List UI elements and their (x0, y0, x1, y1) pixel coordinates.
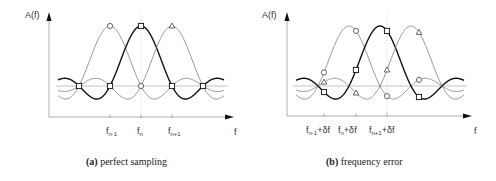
circle-marker-icon (384, 94, 389, 99)
panel-a: fn-1fnfn+1 A(f) f (a) perfect sampling (25, 10, 237, 168)
square-marker-icon (138, 23, 143, 28)
y-axis-label: A(f) (262, 10, 277, 20)
triangle-marker-icon (321, 79, 327, 84)
x-axis-arrow-icon (225, 115, 234, 120)
square-marker-icon (384, 28, 389, 33)
tick-label: fn+δf (338, 125, 357, 136)
tick-label: fn+1 (168, 126, 181, 137)
sinc-curve (296, 26, 464, 99)
tick-label: fn (137, 126, 143, 137)
square-marker-icon (76, 83, 81, 88)
spectral-sampling-figure: fn-1fnfn+1 A(f) f (a) perfect sampling f… (0, 0, 496, 181)
caption-text: perfect sampling (98, 156, 167, 167)
circle-marker-icon (138, 83, 143, 88)
square-marker-icon (416, 94, 421, 99)
sinc-curve (296, 26, 464, 99)
caption-prefix: (b) (326, 156, 338, 168)
x-axis-arrow-icon (463, 114, 472, 119)
square-marker-icon (169, 83, 174, 88)
y-axis-arrow-icon (285, 12, 290, 21)
sinc-curve (296, 26, 464, 99)
circle-marker-icon (416, 77, 421, 82)
circle-marker-icon (321, 70, 326, 75)
square-marker-icon (200, 83, 205, 88)
triangle-marker-icon (169, 23, 175, 28)
caption-prefix: (a) (86, 156, 98, 168)
triangle-marker-icon (384, 67, 390, 72)
y-axis-arrow-icon (47, 12, 52, 21)
x-axis-label: f (474, 126, 477, 136)
x-axis-label: f (234, 127, 237, 137)
tick-label: fn-1 (106, 126, 118, 137)
circle-marker-icon (107, 23, 112, 28)
caption-b: (b) frequency error (326, 156, 403, 168)
caption-text: frequency error (338, 156, 403, 167)
square-marker-icon (107, 83, 112, 88)
circle-marker-icon (353, 28, 358, 33)
square-marker-icon (353, 67, 358, 72)
caption-a: (a) perfect sampling (86, 156, 167, 168)
y-axis-label: A(f) (25, 10, 40, 20)
tick-label: fn-1+δf (306, 125, 330, 136)
square-marker-icon (321, 89, 326, 94)
tick-label: fn+1+δf (369, 125, 395, 136)
panel-b: fn-1+δffn+δffn+1+δf A(f) f (b) frequency… (262, 10, 477, 168)
